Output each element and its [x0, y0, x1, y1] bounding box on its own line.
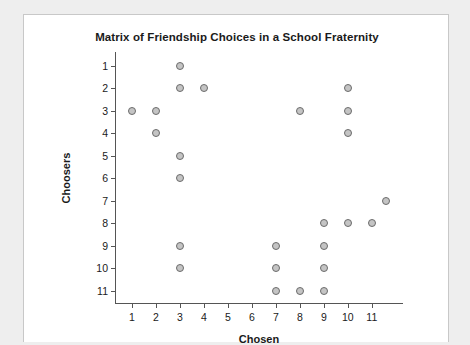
y-tick-mark [111, 268, 115, 269]
y-tick-label: 6 [102, 172, 108, 184]
y-tick-mark [111, 246, 115, 247]
x-tick-mark [324, 304, 325, 308]
x-tick-label: 2 [153, 311, 159, 323]
scatter-point [320, 219, 328, 227]
x-tick-label: 9 [321, 311, 327, 323]
scatter-point [200, 84, 208, 92]
scatter-point [176, 62, 184, 70]
x-tick-mark [372, 304, 373, 308]
y-tick-mark [111, 66, 115, 67]
y-tick-mark [111, 133, 115, 134]
y-tick-label: 1 [102, 60, 108, 72]
x-tick-label: 10 [342, 311, 354, 323]
scatter-point [176, 242, 184, 250]
scatter-point [176, 174, 184, 182]
x-tick-label: 3 [177, 311, 183, 323]
y-tick-mark [111, 111, 115, 112]
y-axis-title: Choosers [60, 153, 72, 204]
y-tick-label: 11 [97, 285, 108, 297]
x-tick-mark [348, 304, 349, 308]
x-tick-label: 7 [273, 311, 279, 323]
scatter-point [176, 152, 184, 160]
scatter-point [296, 287, 304, 295]
scatter-point [344, 84, 352, 92]
chart-card: Matrix of Friendship Choices in a School… [23, 14, 449, 342]
y-tick-mark [111, 156, 115, 157]
y-tick-label: 10 [96, 262, 108, 274]
x-tick-mark [252, 304, 253, 308]
y-tick-mark [111, 291, 115, 292]
scatter-point [344, 107, 352, 115]
x-tick-mark [180, 304, 181, 308]
scatter-point [176, 264, 184, 272]
y-tick-label: 9 [102, 240, 108, 252]
y-axis-line [115, 52, 116, 304]
x-axis-title: Chosen [115, 333, 403, 345]
scatter-point [272, 264, 280, 272]
scatter-point [320, 287, 328, 295]
x-tick-label: 6 [249, 311, 255, 323]
x-tick-label: 5 [225, 311, 231, 323]
chart-title: Matrix of Friendship Choices in a School… [24, 31, 450, 43]
x-tick-label: 8 [297, 311, 303, 323]
y-tick-label: 4 [102, 127, 108, 139]
scatter-point [344, 219, 352, 227]
y-tick-label: 2 [102, 82, 108, 94]
x-tick-mark [156, 304, 157, 308]
y-tick-mark [111, 178, 115, 179]
scatter-point [320, 242, 328, 250]
y-tick-mark [111, 88, 115, 89]
x-tick-label: 1 [129, 311, 135, 323]
scatter-point [368, 219, 376, 227]
y-tick-mark [111, 201, 115, 202]
scatter-point [272, 242, 280, 250]
y-tick-mark [111, 223, 115, 224]
x-tick-label: 11 [366, 311, 377, 323]
x-tick-mark [132, 304, 133, 308]
scatter-point [272, 287, 280, 295]
scatter-point [320, 264, 328, 272]
y-tick-label: 8 [102, 217, 108, 229]
x-tick-mark [276, 304, 277, 308]
x-tick-label: 4 [201, 311, 207, 323]
scatter-point [152, 129, 160, 137]
y-tick-label: 5 [102, 150, 108, 162]
x-axis-line [115, 303, 403, 304]
plot-area: 1234567891011 1234567891011 [115, 52, 403, 304]
scatter-point [382, 197, 390, 205]
x-tick-mark [228, 304, 229, 308]
x-tick-mark [204, 304, 205, 308]
scatter-point [296, 107, 304, 115]
y-tick-label: 3 [102, 105, 108, 117]
x-tick-mark [300, 304, 301, 308]
scatter-point [152, 107, 160, 115]
y-tick-label: 7 [102, 195, 108, 207]
scatter-point [176, 84, 184, 92]
scatter-point [344, 129, 352, 137]
scatter-point [128, 107, 136, 115]
